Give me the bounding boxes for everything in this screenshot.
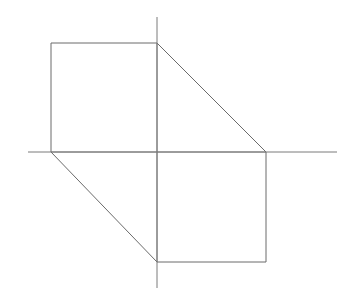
line-drawing bbox=[0, 0, 343, 298]
figure-canvas bbox=[0, 0, 343, 298]
